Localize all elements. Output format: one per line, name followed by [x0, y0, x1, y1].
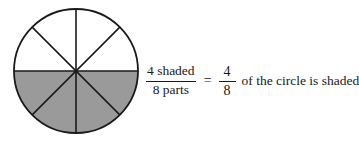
word-fraction-numerator: 4 shaded [146, 64, 196, 79]
numeric-fraction: 4 8 [219, 64, 236, 97]
circle-diagram [11, 6, 141, 136]
numeric-fraction-numerator: 4 [219, 64, 236, 79]
word-fraction: 4 shaded 8 parts [146, 64, 196, 97]
numeric-fraction-denominator: 8 [219, 83, 236, 98]
numeric-fraction-bar [219, 81, 236, 82]
trailing-caption: of the circle is shaded [242, 73, 359, 89]
equals-sign: = [204, 73, 212, 90]
fraction-equation: 4 shaded 8 parts = 4 8 of the circle is … [146, 56, 359, 106]
word-fraction-denominator: 8 parts [152, 83, 190, 98]
